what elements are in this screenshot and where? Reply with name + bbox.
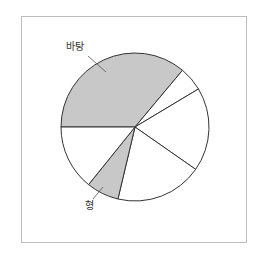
pie-chart — [0, 0, 262, 260]
label-background: 바탕 — [66, 42, 84, 52]
label-figure: 형 — [85, 201, 94, 211]
